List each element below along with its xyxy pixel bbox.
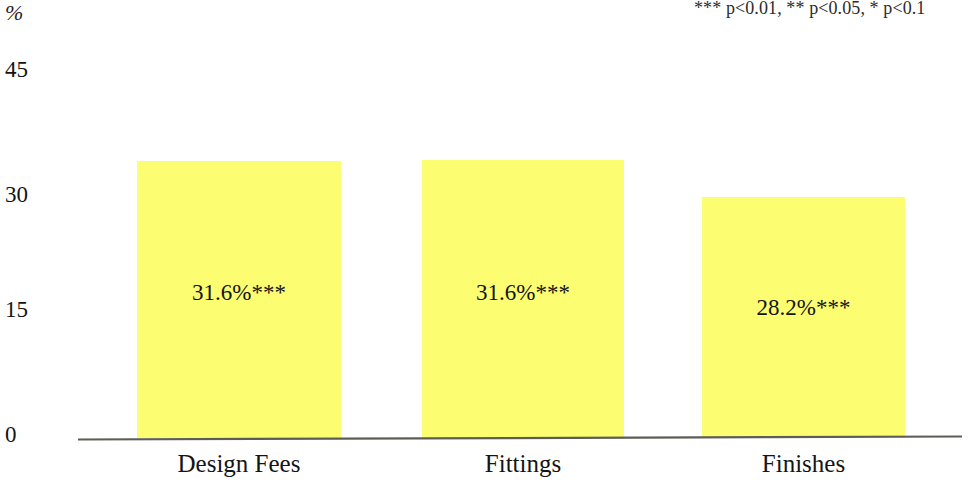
bar-chart: *** p<0.01, ** p<0.05, * p<0.1 % 45 30 1… <box>0 0 969 489</box>
bar-value-finishes: 28.2%*** <box>702 295 905 321</box>
plot-area: 31.6%*** 31.6%*** 28.2%*** <box>0 0 969 489</box>
x-axis-label-finishes: Finishes <box>702 450 905 478</box>
bar-value-fittings: 31.6%*** <box>422 280 624 306</box>
bar-value-design-fees: 31.6%*** <box>137 280 341 306</box>
x-axis-label-design-fees: Design Fees <box>137 450 341 478</box>
x-axis-label-fittings: Fittings <box>422 450 624 478</box>
